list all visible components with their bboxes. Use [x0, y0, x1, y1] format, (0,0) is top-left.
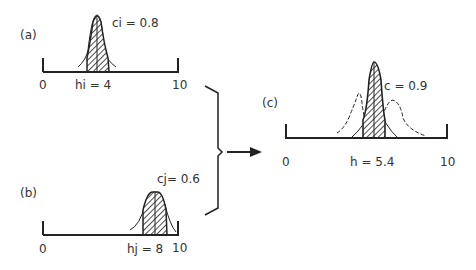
panel-a-axis-min: 0 [39, 79, 47, 91]
panel-c-distribution [285, 62, 448, 138]
panel-b-peak: hj = 8 [127, 243, 163, 255]
merge-brace [205, 86, 222, 215]
panel-a-confidence: ci = 0.8 [112, 17, 159, 29]
arrow-icon [227, 147, 262, 157]
panel-b-confidence: cj= 0.6 [157, 173, 200, 185]
panel-b-axis-max: 10 [172, 242, 187, 254]
panel-b-axis-min: 0 [39, 243, 47, 255]
panel-a-label: (a) [20, 29, 37, 41]
panel-c-label: (c) [262, 97, 278, 109]
panel-a-axis-max: 10 [172, 79, 187, 91]
panel-c-peak: h = 5.4 [350, 156, 394, 168]
panel-b-distribution [43, 192, 179, 235]
panel-c-confidence: c = 0.9 [384, 80, 427, 92]
diagram-canvas [0, 0, 476, 270]
panel-c-axis-min: 0 [282, 156, 290, 168]
panel-a-peak: hi = 4 [75, 79, 111, 91]
panel-c-axis-max: 10 [440, 156, 455, 168]
panel-b-label: (b) [20, 187, 37, 199]
